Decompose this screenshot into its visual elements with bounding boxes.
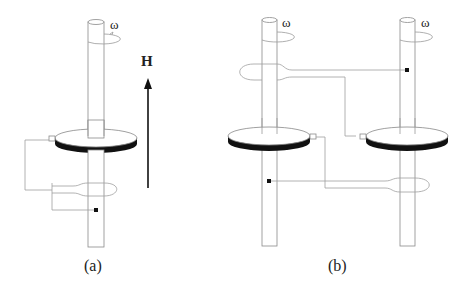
brush-contact xyxy=(310,134,316,139)
panel-b: ω ω xyxy=(228,15,448,275)
brush-contact xyxy=(49,136,55,141)
lower-shaft xyxy=(88,150,104,247)
contact-point xyxy=(405,68,409,72)
upper-shaft xyxy=(88,20,104,135)
wire xyxy=(25,140,52,190)
dynamo-diagram: ω H (a) xyxy=(0,0,469,288)
disk xyxy=(55,120,137,153)
omega-label-left: ω xyxy=(282,15,291,30)
omega-label-right: ω xyxy=(421,15,430,30)
contact-point xyxy=(94,208,98,212)
caption-a: (a) xyxy=(84,257,102,275)
omega-label: ω xyxy=(110,17,119,32)
caption-b: (b) xyxy=(328,257,347,275)
field-label: H xyxy=(141,53,153,69)
wire xyxy=(277,77,356,136)
contact-point xyxy=(267,179,271,183)
panel-a: ω H (a) xyxy=(25,17,153,275)
magnetic-field-arrow-icon xyxy=(144,78,152,188)
brush-contact xyxy=(360,134,366,139)
coil-loop xyxy=(52,183,117,196)
